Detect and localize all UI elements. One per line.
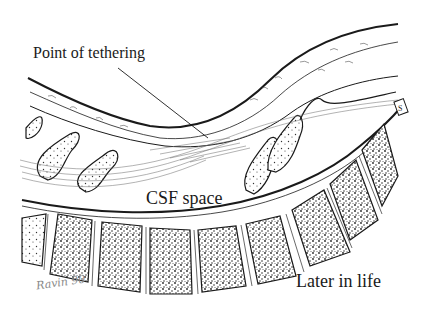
later-in-life-label: Later in life	[296, 272, 381, 290]
svg-text:S: S	[398, 104, 402, 113]
tethering-label: Point of tethering	[33, 45, 145, 61]
csf-space-label: CSF space	[146, 189, 223, 207]
skin-layer	[28, 24, 398, 147]
